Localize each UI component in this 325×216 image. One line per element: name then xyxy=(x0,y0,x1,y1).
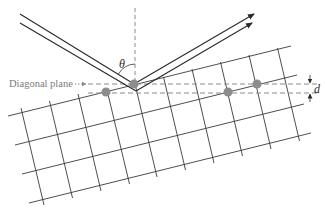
atom-dot xyxy=(253,80,262,89)
lattice-column-4 xyxy=(135,84,157,177)
reflected-beam-lower xyxy=(136,23,252,91)
reflected-beam-upper xyxy=(134,14,254,84)
lattice-column-7 xyxy=(221,62,243,156)
lattice-column-1 xyxy=(50,101,73,198)
lattice-column-2 xyxy=(78,94,101,191)
lattice-column-5 xyxy=(164,77,186,170)
theta-label: θ xyxy=(119,57,125,71)
lattice-column-6 xyxy=(192,69,214,163)
incident-beam-upper xyxy=(20,14,134,84)
spacing-marker: d xyxy=(310,75,321,102)
spacing-d-label: d xyxy=(314,82,321,96)
atom-dot xyxy=(224,88,233,97)
atom-dot xyxy=(130,80,139,89)
lattice-column-8 xyxy=(249,55,271,149)
lattice-column-9 xyxy=(278,48,300,141)
bragg-diagram: θ Diagonal plane d xyxy=(0,0,325,216)
highlighted-atoms xyxy=(102,80,262,97)
lattice-column-3 xyxy=(107,88,130,184)
lattice-columns xyxy=(21,48,300,205)
lattice-column-0 xyxy=(21,108,44,205)
atom-dot xyxy=(102,88,111,97)
diagonal-plane-label: Diagonal plane xyxy=(9,78,73,89)
